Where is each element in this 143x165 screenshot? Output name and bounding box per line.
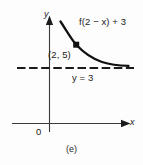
origin-label: 0 (36, 127, 41, 137)
y-axis-label: y (44, 10, 49, 19)
point-coordinate-label: (2, 5) (48, 50, 71, 60)
point-marker-2-5 (73, 42, 79, 48)
graph-figure: y x 0 f(2 − x) + 3 (2, 5) y = 3 (e) (0, 0, 143, 165)
asymptote-equation-label: y = 3 (72, 73, 93, 83)
function-expression-label: f(2 − x) + 3 (79, 17, 126, 27)
panel-caption: (e) (0, 145, 143, 154)
x-axis-label: x (130, 118, 135, 127)
